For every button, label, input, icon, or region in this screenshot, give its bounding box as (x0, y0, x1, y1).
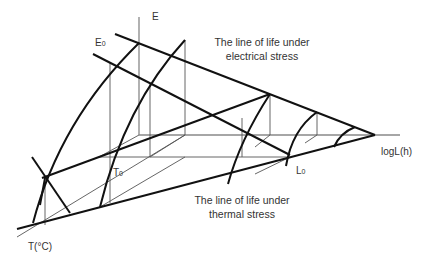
e-axis-label: E (152, 10, 159, 23)
electrical-stress-caption: The line of life under electrical stress (212, 35, 312, 63)
e0-label: E0 (95, 36, 106, 50)
t-axis-label: T(°C) (28, 240, 52, 253)
t0-label: T0 (113, 166, 123, 180)
thermal-stress-caption: The line of life under thermal stress (186, 193, 298, 221)
logl-axis-label: logL(h) (381, 145, 412, 158)
l0-label: L0 (296, 164, 305, 178)
